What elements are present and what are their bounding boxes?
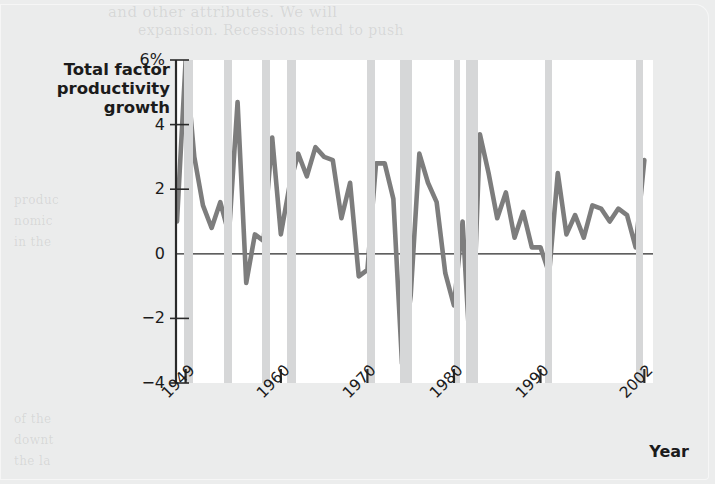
x-axis-title: Year	[649, 442, 689, 461]
scanned-page: and other attributes. We will expansion.…	[0, 0, 715, 484]
y-tick-label: 0	[121, 244, 165, 263]
y-tick-label: 6%	[121, 50, 165, 69]
y-tick-label: 4	[121, 115, 165, 134]
tfp-growth-chart: Total factorproductivitygrowth −4−20246%…	[0, 0, 715, 484]
y-tick-label: −2	[121, 308, 165, 327]
axis-ticks	[0, 0, 715, 484]
y-tick-label: 2	[121, 179, 165, 198]
